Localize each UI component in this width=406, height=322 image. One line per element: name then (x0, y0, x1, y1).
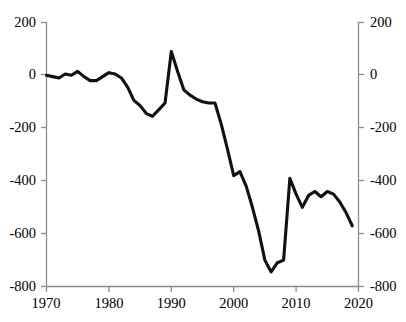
plot-area (0, 0, 406, 322)
y-axis-left-tick-label: 200 (0, 15, 36, 30)
y-axis-right-ticks (359, 23, 365, 287)
y-axis-right-tick-label: 200 (370, 15, 406, 30)
y-axis-left-tick-label: -800 (0, 279, 36, 294)
x-axis-tick-label: 1990 (148, 296, 194, 311)
x-axis-tick-label: 2000 (211, 296, 257, 311)
y-axis-left-tick-label: -600 (0, 226, 36, 241)
x-axis-tick-label: 1970 (23, 296, 69, 311)
x-axis-tick-label: 1980 (86, 296, 132, 311)
y-axis-left-ticks (41, 23, 47, 287)
y-axis-left-tick-label: -400 (0, 173, 36, 188)
y-axis-left-tick-label: -200 (0, 120, 36, 135)
y-axis-right-tick-label: -600 (370, 226, 406, 241)
y-axis-right-tick-label: -200 (370, 120, 406, 135)
x-axis-tick-label: 2010 (273, 296, 319, 311)
y-axis-left-tick-label: 0 (0, 67, 36, 82)
data-line-series-1 (47, 52, 353, 272)
chart-container: 200 0 -200 -400 -600 -800 200 0 -200 -40… (0, 0, 406, 322)
x-axis-ticks (47, 287, 359, 293)
x-axis-tick-label: 2020 (336, 296, 382, 311)
y-axis-right-tick-label: -400 (370, 173, 406, 188)
y-axis-right-tick-label: 0 (370, 67, 406, 82)
y-axis-right-tick-label: -800 (370, 279, 406, 294)
